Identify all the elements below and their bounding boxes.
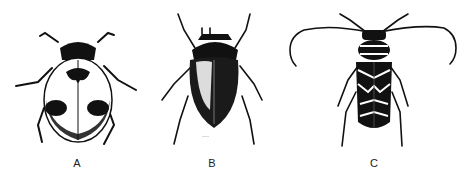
panel-a: A: [0, 0, 160, 176]
panel-c: C: [280, 0, 467, 176]
longhorn-beetle-illustration: [280, 0, 467, 176]
panel-label-b: B: [202, 157, 222, 169]
panel-label-c: C: [364, 157, 384, 169]
panel-b: ~~~ B: [150, 0, 280, 176]
ladybird-beetle-illustration: [0, 0, 160, 176]
panel-label-a: A: [67, 157, 87, 169]
scarab-beetle-illustration: ~~~: [150, 0, 280, 176]
svg-text:~~~: ~~~: [202, 134, 210, 139]
